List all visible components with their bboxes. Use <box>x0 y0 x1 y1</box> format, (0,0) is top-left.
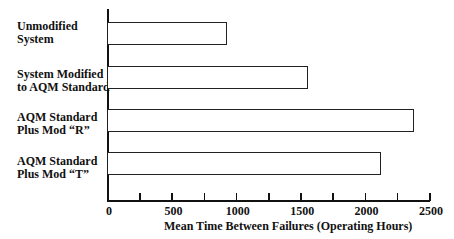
x-axis-tick-label: 1000 <box>226 204 250 219</box>
x-axis-tick <box>171 193 173 201</box>
x-axis-tick-label: 1500 <box>290 204 314 219</box>
category-label-line: Plus Mod “T” <box>17 168 97 181</box>
x-axis-tick-label: 2500 <box>419 204 443 219</box>
bar <box>107 66 308 89</box>
x-axis-title: Mean Time Between Failures (Operating Ho… <box>164 219 412 234</box>
x-axis-tick <box>429 193 431 201</box>
x-axis-tick-label: 500 <box>164 204 182 219</box>
x-axis-tick-label: 2000 <box>355 204 379 219</box>
x-axis-tick <box>332 193 334 201</box>
x-axis-tick <box>236 193 238 201</box>
x-axis-tick <box>397 193 399 201</box>
category-label-4: AQM Standard Plus Mod “T” <box>17 155 97 181</box>
category-label-line: Plus Mod “R” <box>17 124 97 137</box>
category-label-line: System <box>17 33 78 46</box>
x-axis-tick <box>268 193 270 201</box>
bar <box>107 22 227 45</box>
category-label-1: Unmodified System <box>17 20 78 46</box>
x-axis-tick-label: 0 <box>106 204 112 219</box>
bar <box>107 109 414 132</box>
category-label-3: AQM Standard Plus Mod “R” <box>17 111 97 137</box>
bar <box>107 152 381 175</box>
category-label-2: System Modified to AQM Standard <box>17 68 110 94</box>
x-axis-tick <box>139 193 141 201</box>
category-label-line: to AQM Standard <box>17 81 110 94</box>
x-axis-tick <box>365 193 367 201</box>
x-axis-tick <box>204 193 206 201</box>
x-axis-tick <box>300 193 302 201</box>
